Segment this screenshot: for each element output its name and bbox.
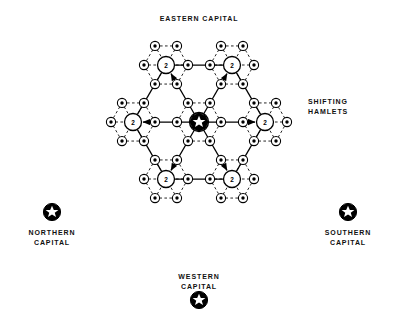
hamlet-node-icon <box>183 98 192 107</box>
hamlet-node-icon <box>249 136 258 145</box>
market-center-node: 2 <box>125 114 142 131</box>
hamlet-node-icon <box>238 117 247 126</box>
hamlet-node-icon <box>172 41 181 50</box>
hamlet-node-icon <box>216 79 225 88</box>
hamlet-node-icon <box>238 155 247 164</box>
hamlet-node-icon <box>183 60 192 69</box>
eastern-capital-star-icon <box>190 113 207 130</box>
hamlet-node-icon <box>106 117 115 126</box>
hamlet-node-icon <box>150 79 159 88</box>
hamlet-node-icon <box>150 41 159 50</box>
market-center-rank-label: 2 <box>230 176 234 183</box>
hamlet-node-icon <box>249 60 258 69</box>
southern-capital-star-icon <box>339 203 356 220</box>
market-center-rank-label: 2 <box>230 62 234 69</box>
hamlet-node-icon <box>238 193 247 202</box>
hamlet-node-icon <box>139 60 148 69</box>
market-center-node: 2 <box>158 171 175 188</box>
hamlet-node-icon <box>216 193 225 202</box>
market-center-node: 2 <box>257 114 274 131</box>
hamlet-node-icon <box>117 136 126 145</box>
market-center-node: 2 <box>158 57 175 74</box>
market-center-node: 2 <box>224 57 241 74</box>
hamlet-node-icon <box>172 155 181 164</box>
hamlet-node-icon <box>205 60 214 69</box>
market-center-node: 2 <box>224 171 241 188</box>
hamlet-node-icon <box>150 117 159 126</box>
hamlet-node-icon <box>238 79 247 88</box>
hamlet-node-icon <box>117 98 126 107</box>
hamlet-node-icon <box>238 41 247 50</box>
hamlet-node-icon <box>150 193 159 202</box>
hamlet-node-icon <box>183 174 192 183</box>
hamlet-node-icon <box>216 41 225 50</box>
hamlet-node-icon <box>139 98 148 107</box>
hamlet-node-icon <box>205 174 214 183</box>
capital-node <box>190 113 209 132</box>
market-center-rank-label: 2 <box>164 176 168 183</box>
shifting-hamlets-label: SHIFTING HAMLETS <box>308 97 388 117</box>
hamlet-node-icon <box>249 98 258 107</box>
southern-capital-label: SOUTHERN CAPITAL <box>300 228 396 248</box>
central-place-diagram: 222222 EASTERN CAPITAL SHIFTING HAMLETS … <box>0 0 398 323</box>
northern-capital-label: NORTHERN CAPITAL <box>4 228 100 248</box>
hamlet-node-icon <box>205 136 214 145</box>
western-capital-label: WESTERN CAPITAL <box>146 272 252 292</box>
hamlet-node-icon <box>271 136 280 145</box>
hamlet-node-icon <box>139 136 148 145</box>
eastern-capital-label: EASTERN CAPITAL <box>129 14 269 24</box>
hamlet-node-icon <box>139 174 148 183</box>
hamlet-node-icon <box>249 174 258 183</box>
market-center-rank-label: 2 <box>263 119 267 126</box>
hamlet-node-icon <box>216 155 225 164</box>
hamlet-node-icon <box>205 98 214 107</box>
hamlet-node-icon <box>271 98 280 107</box>
hamlet-node-icon <box>282 117 291 126</box>
hamlet-node-icon <box>150 155 159 164</box>
hamlet-node-icon <box>216 117 225 126</box>
market-center-rank-label: 2 <box>131 119 135 126</box>
hamlet-node-icon <box>172 193 181 202</box>
corner-capital-stars <box>43 203 356 308</box>
hamlet-node-icon <box>172 79 181 88</box>
western-capital-star-icon <box>190 291 207 308</box>
hamlet-node-icon <box>172 117 181 126</box>
northern-capital-star-icon <box>43 203 60 220</box>
hamlet-node-icon <box>183 136 192 145</box>
market-center-rank-label: 2 <box>164 62 168 69</box>
